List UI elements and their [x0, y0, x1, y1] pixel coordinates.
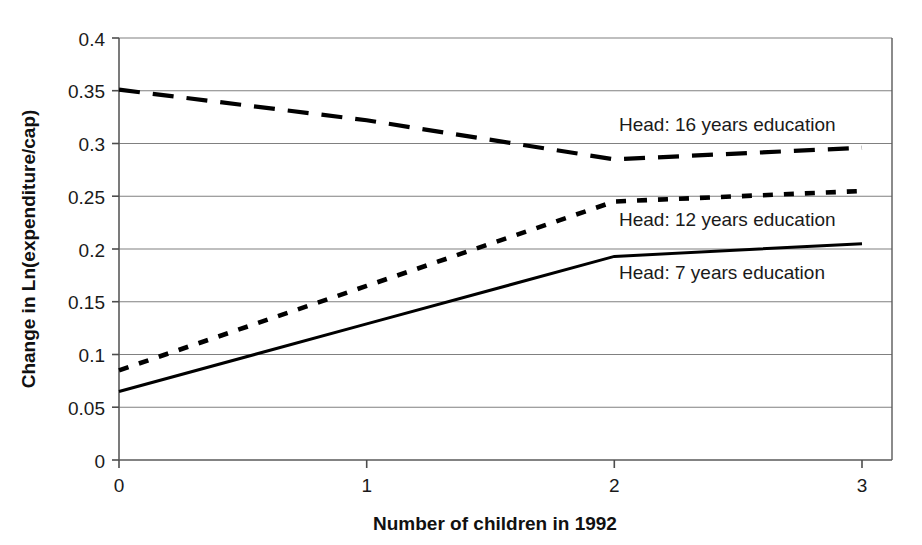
y-tick-label-0.35: 0.35 [68, 81, 105, 102]
y-tick-label-0.1: 0.1 [79, 345, 105, 366]
x-axis-title: Number of children in 1992 [373, 513, 617, 534]
y-tick-label-0.05: 0.05 [68, 398, 105, 419]
y-axis-title: Change in Ln(expenditure/cap) [18, 110, 39, 389]
y-tick-label-0.3: 0.3 [79, 134, 105, 155]
annotation-head-16-years: Head: 16 years education [619, 114, 836, 135]
y-tick-label-0: 0 [94, 451, 105, 472]
y-tick-label-0.2: 0.2 [79, 240, 105, 261]
y-tick-label-0.4: 0.4 [79, 29, 106, 50]
chart-figure: 0.4 0.35 0.3 0.25 0.2 0.15 0.1 0.05 0 0 … [0, 0, 922, 545]
x-tick-label-0: 0 [114, 475, 125, 496]
annotation-head-7-years: Head: 7 years education [619, 262, 825, 283]
x-tick-label-1: 1 [361, 475, 372, 496]
x-tick-label-2: 2 [609, 475, 620, 496]
annotation-head-12-years: Head: 12 years education [619, 209, 836, 230]
y-tick-label-0.15: 0.15 [68, 292, 105, 313]
y-tick-label-0.25: 0.25 [68, 187, 105, 208]
x-tick-label-3: 3 [857, 475, 868, 496]
